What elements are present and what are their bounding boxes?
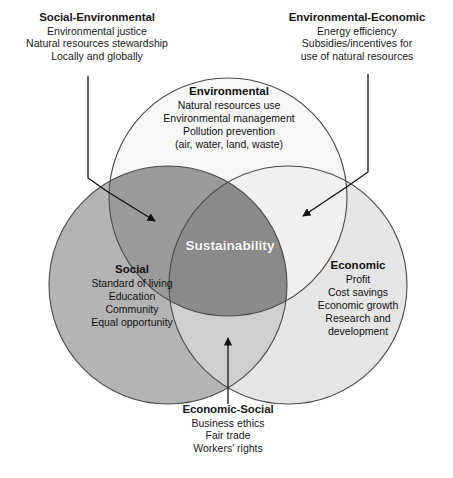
circle-label-economic-title: Economic (288, 258, 428, 272)
callout-social-environmental: Social-Environmental Environmental justi… (2, 10, 192, 63)
callout-economic-social-line-2: Fair trade (128, 429, 328, 442)
callout-economic-social-line-1: Business ethics (128, 417, 328, 430)
circle-label-economic-line-2: Cost savings (288, 286, 428, 299)
circle-label-social-line-2: Education (52, 290, 212, 303)
callout-social-environmental-line-2: Natural resources stewardship (2, 37, 192, 50)
callout-social-environmental-line-1: Environmental justice (2, 25, 192, 38)
circle-label-social-title: Social (52, 262, 212, 276)
circle-label-social-line-3: Community (52, 303, 212, 316)
leader-environmental-economic (348, 74, 368, 186)
circle-label-environmental-line-2: Environmental management (138, 112, 320, 125)
callout-economic-social: Economic-Social Business ethics Fair tra… (128, 402, 328, 455)
callout-environmental-economic: Environmental-Economic Energy efficiency… (262, 10, 452, 63)
circle-label-environmental-line-4: (air, water, land, waste) (138, 138, 320, 151)
circle-label-social-line-1: Standard of living (52, 277, 212, 290)
circle-label-environmental-title: Environmental (138, 84, 320, 98)
callout-economic-social-line-3: Workers' rights (128, 442, 328, 455)
circle-label-economic: Economic Profit Cost savings Economic gr… (288, 258, 428, 339)
callout-social-environmental-title: Social-Environmental (2, 10, 192, 24)
callout-economic-social-title: Economic-Social (128, 402, 328, 416)
circle-label-economic-line-4: Research and (288, 312, 428, 325)
circle-label-social: Social Standard of living Education Comm… (52, 262, 212, 329)
callout-environmental-economic-line-3: use of natural resources (262, 50, 452, 63)
circle-label-environmental: Environmental Natural resources use Envi… (138, 84, 320, 151)
circle-label-economic-line-3: Economic growth (288, 299, 428, 312)
callout-environmental-economic-title: Environmental-Economic (262, 10, 452, 24)
figure-caption-partial (0, 469, 453, 478)
circle-label-economic-line-5: development (288, 325, 428, 338)
callout-social-environmental-line-3: Locally and globally (2, 50, 192, 63)
callout-environmental-economic-line-1: Energy efficiency (262, 25, 452, 38)
leader-social-environmental (88, 76, 108, 192)
circle-label-economic-line-1: Profit (288, 273, 428, 286)
circle-label-environmental-line-1: Natural resources use (138, 99, 320, 112)
circle-label-environmental-line-3: Pollution prevention (138, 125, 320, 138)
callout-environmental-economic-line-2: Subsidies/incentives for (262, 37, 452, 50)
diagram-canvas: Social-Environmental Environmental justi… (0, 0, 453, 478)
center-label-sustainability: Sustainability (160, 238, 300, 253)
circle-label-social-line-4: Equal opportunity (52, 316, 212, 329)
